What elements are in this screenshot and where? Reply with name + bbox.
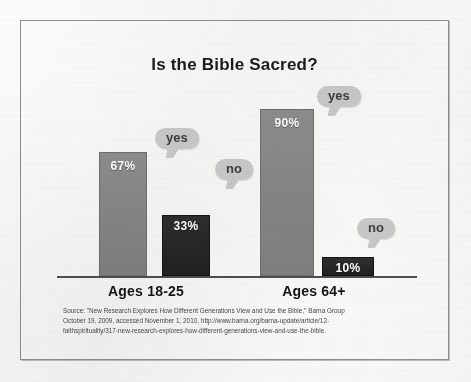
bar-value-label: 10% [323, 261, 373, 275]
bar-ages-64-plus-no[interactable]: 10% [322, 257, 374, 276]
source-citation: Source: "New Research Explores How Diffe… [63, 306, 408, 336]
bar-ages-64-plus-yes[interactable]: 90% [260, 109, 314, 276]
callout-ages-18-25-no: no [215, 159, 253, 180]
x-axis-line [57, 276, 417, 278]
callout-ages-64-plus-no: no [357, 218, 395, 239]
bar-value-label: 33% [163, 219, 209, 233]
figure-frame: Is the Bible Sacred? 67% yes 33% no 90% … [20, 20, 449, 360]
scanned-page: Is the Bible Sacred? 67% yes 33% no 90% … [0, 0, 471, 382]
category-label-ages-64-plus: Ages 64+ [253, 283, 375, 299]
category-label-ages-18-25: Ages 18-25 [81, 283, 211, 299]
callout-ages-18-25-yes: yes [155, 128, 199, 149]
bar-value-label: 67% [100, 159, 146, 173]
source-line-1: Source: "New Research Explores How Diffe… [63, 306, 408, 316]
bar-value-label: 90% [261, 116, 313, 130]
chart-title: Is the Bible Sacred? [21, 55, 448, 75]
chart-plot-area: 67% yes 33% no 90% yes 10% no [57, 93, 417, 278]
source-line-2: October 19, 2009, accessed November 1, 2… [63, 316, 408, 326]
callout-ages-64-plus-yes: yes [317, 86, 361, 107]
source-line-3: faithspirituality/317-new-research-explo… [63, 326, 408, 336]
bar-ages-18-25-no[interactable]: 33% [162, 215, 210, 276]
bar-ages-18-25-yes[interactable]: 67% [99, 152, 147, 276]
